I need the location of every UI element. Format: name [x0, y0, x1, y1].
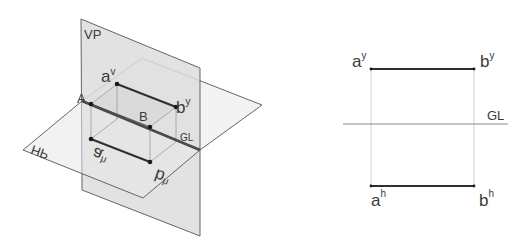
point-av — [115, 82, 120, 87]
label-bv: by — [480, 50, 494, 71]
pictorial-view: VP HP GL A B av by ah bh — [23, 19, 262, 236]
point-bh — [148, 160, 153, 165]
label-B: B — [139, 109, 148, 124]
ortho-points — [370, 68, 476, 188]
projectors-ortho — [371, 69, 474, 186]
projection-diagram: VP HP GL A B av by ah bh GL — [0, 0, 526, 252]
label-A: A — [77, 91, 86, 106]
point-ah — [89, 137, 94, 142]
label-ah: ah — [371, 188, 386, 210]
vp-label: VP — [84, 27, 101, 42]
point-B — [148, 125, 153, 130]
gl-label: GL — [487, 108, 504, 123]
orthographic-view: GL ay by ah bh — [343, 50, 508, 210]
point-A — [89, 102, 94, 107]
label-bh: bh — [479, 188, 494, 210]
gl-label-3d: GL — [180, 132, 194, 143]
label-av: ay — [352, 50, 366, 71]
